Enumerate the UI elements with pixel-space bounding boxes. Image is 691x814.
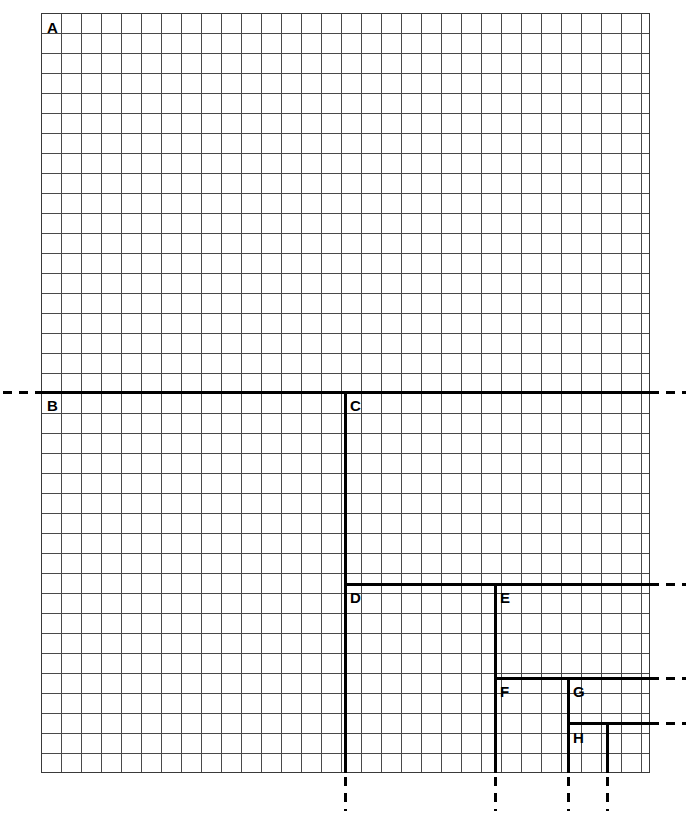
dash-right-b [650, 391, 686, 394]
line-g-down [567, 677, 570, 773]
point-label-b: B [47, 398, 58, 413]
point-label-c: C [350, 398, 361, 413]
point-label-a: A [47, 20, 58, 35]
line-d-e-right [344, 583, 650, 586]
dash-down-g [567, 777, 570, 811]
point-label-d: D [350, 590, 361, 605]
point-label-h: H [573, 730, 584, 745]
line-c-down [344, 391, 347, 773]
dash-right-f [650, 677, 686, 680]
dash-down-e [494, 777, 497, 811]
line-h-down [606, 722, 609, 773]
line-e-down [494, 583, 497, 773]
diagram-canvas: ABCDEFGH [0, 0, 691, 814]
point-label-g: G [573, 684, 585, 699]
dash-right-d [650, 583, 686, 586]
line-f-g-right [494, 677, 650, 680]
point-label-f: F [500, 684, 509, 699]
dash-right-h [650, 722, 686, 725]
point-label-e: E [500, 590, 510, 605]
dash-left-b [3, 391, 41, 394]
dash-down-c [344, 777, 347, 811]
dash-down-h [606, 777, 609, 811]
